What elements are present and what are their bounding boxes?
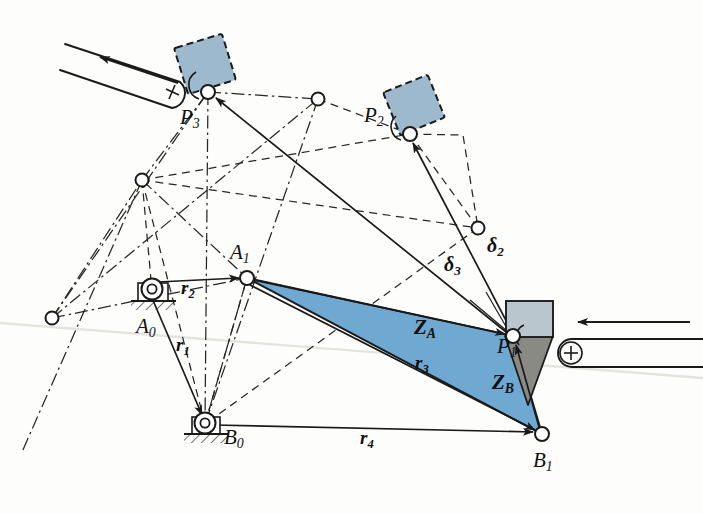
joint-B1 [535, 427, 549, 441]
label-P2: P2 [364, 103, 384, 130]
joint-right [472, 222, 485, 235]
diagram-svg [0, 0, 703, 514]
label-ZB: ZB [492, 370, 514, 397]
block-P2 [383, 75, 445, 136]
vector-r2 [158, 278, 239, 282]
joint-mid-left [136, 174, 149, 187]
joint-P2 [403, 127, 417, 141]
slider-track-upper-left [60, 44, 185, 108]
label-P1: P1 [497, 334, 517, 361]
construction-lines-dashdot [22, 92, 318, 452]
ground-pivot-B0 [184, 413, 229, 444]
label-r3: r3 [415, 352, 429, 377]
label-P3: P3 [180, 105, 200, 132]
joint-A1 [240, 271, 254, 285]
label-r2: r2 [181, 277, 195, 302]
label-r4: r4 [360, 427, 374, 452]
label-ZA: ZA [414, 315, 436, 342]
label-B1: B1 [533, 448, 553, 475]
label-delta3: δ3 [444, 253, 461, 279]
label-B0: B0 [224, 425, 244, 452]
joint-P3 [201, 85, 215, 99]
vector-delta3 [216, 98, 506, 332]
label-delta2: δ2 [487, 234, 504, 260]
label-A0: A0 [136, 314, 156, 341]
joint-left [46, 312, 59, 325]
label-A1: A1 [230, 240, 250, 267]
label-r1: r1 [176, 334, 190, 359]
figure-canvas: A0 B0 A1 B1 P1 P2 P3 r1 r2 r3 r4 ZA ZB δ… [0, 0, 703, 514]
joint-top-right [312, 93, 325, 106]
